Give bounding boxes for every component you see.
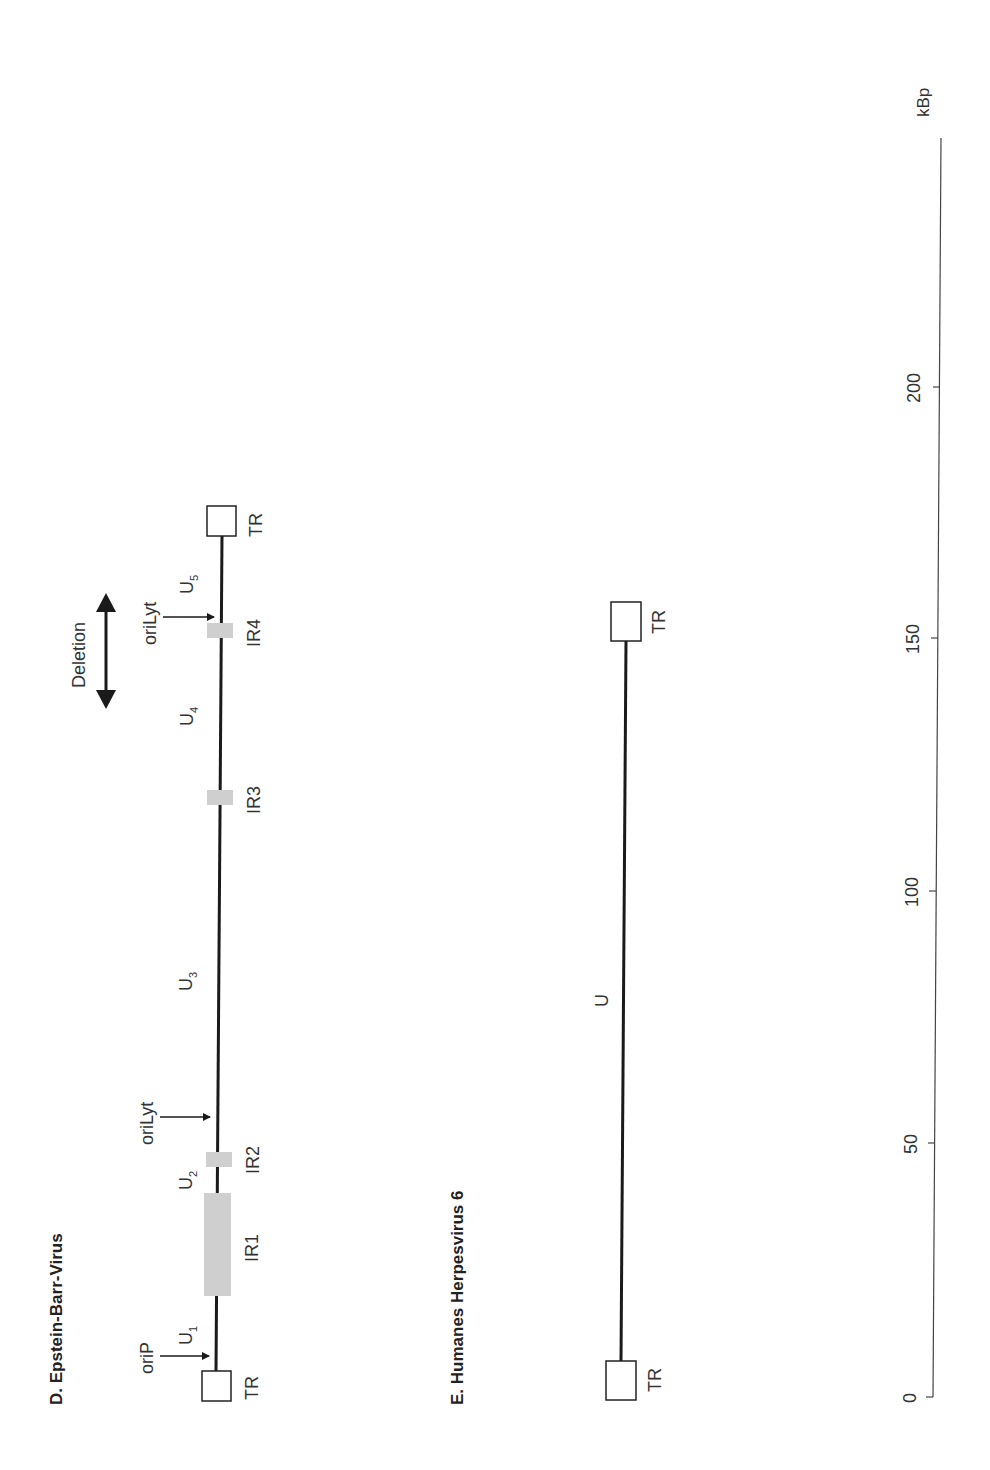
svg-text:U5: U5: [177, 575, 200, 594]
oriLyt-1-label: oriLyt: [137, 1102, 157, 1145]
ebv-ir3-block: [207, 790, 233, 805]
deletion-label: Deletion: [69, 622, 89, 688]
ebv-ir4-block: [207, 623, 233, 638]
ebv-ir3-label: IR3: [244, 786, 264, 814]
ebv-tr-left-label: TR: [242, 1376, 262, 1400]
hhv6-tr-left-label: TR: [645, 1368, 665, 1392]
deletion-double-arrow-icon: [96, 593, 116, 709]
svg-text:U4: U4: [177, 707, 200, 726]
hhv6-genome-line: [621, 641, 626, 1361]
ebv-tr-box-right: [207, 506, 236, 536]
oriLyt-2-label: oriLyt: [140, 602, 160, 645]
ebv-title: D. Epstein-Barr-Virus: [47, 1233, 66, 1405]
hhv6-title: E. Humanes Herpesvirus 6: [448, 1191, 467, 1405]
ebv-ir1-label: IR1: [242, 1234, 262, 1262]
ebv-u2-label: U2: [176, 1171, 199, 1190]
svg-text:U1: U1: [176, 1326, 199, 1345]
kbp-scale-axis: 0 50 100 150 200 kBp: [900, 88, 941, 1403]
svg-text:U2: U2: [176, 1171, 199, 1190]
hhv6-tr-right-label: TR: [649, 610, 669, 634]
scale-tick-label-50: 50: [901, 1134, 921, 1154]
hhv6-tr-box-left: [606, 1361, 636, 1400]
scale-tick-label-0: 0: [900, 1393, 920, 1403]
scale-unit-label: kBp: [914, 88, 933, 117]
hhv6-tr-box-right: [611, 602, 641, 641]
scale-tick-label-200: 200: [904, 373, 924, 403]
hhv6-panel: E. Humanes Herpesvirus 6 TR TR U: [448, 602, 669, 1405]
scale-tick-label-150: 150: [903, 624, 923, 654]
ebv-panel: D. Epstein-Barr-Virus TR TR IR1 IR2 IR3 …: [47, 506, 266, 1405]
genome-map-figure: D. Epstein-Barr-Virus TR TR IR1 IR2 IR3 …: [0, 0, 990, 1470]
scale-tick-label-100: 100: [902, 877, 922, 907]
ebv-tr-box-left: [202, 1371, 231, 1401]
ebv-ir2-block: [206, 1152, 232, 1167]
oriP-label: oriP: [137, 1342, 157, 1374]
ebv-ir2-label: IR2: [243, 1146, 263, 1174]
ebv-ir4-label: IR4: [244, 619, 264, 647]
scale-axis-line: [933, 138, 941, 1397]
ebv-u3-label: U3: [176, 972, 199, 991]
ebv-u1-label: U1: [176, 1326, 199, 1345]
ebv-u4-label: U4: [177, 707, 200, 726]
ebv-u5-label: U5: [177, 575, 200, 594]
hhv6-u-label: U: [592, 994, 612, 1007]
ebv-tr-right-label: TR: [246, 513, 266, 537]
svg-text:U3: U3: [176, 972, 199, 991]
ebv-ir1-block: [204, 1193, 231, 1296]
